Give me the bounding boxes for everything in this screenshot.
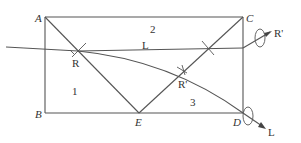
- ray-l-straight: [78, 48, 243, 51]
- label-r-prime-out: R': [274, 27, 283, 39]
- label-region-1: 1: [72, 85, 78, 97]
- ray-r-prime-exit: [243, 38, 260, 48]
- tick-r-left-1: [72, 43, 86, 57]
- label-a: A: [34, 12, 42, 24]
- label-l-line: L: [142, 39, 149, 51]
- label-r-left: R: [72, 57, 80, 69]
- label-c: C: [246, 12, 254, 24]
- label-l-out: L: [268, 126, 275, 138]
- label-region-3: 3: [190, 96, 196, 108]
- curved-ray: [78, 51, 243, 113]
- arrowhead-l-icon: [258, 122, 266, 129]
- geometry-diagram: A B C D E 1 2 3 R R' R' L L: [0, 0, 301, 143]
- label-region-2: 2: [150, 23, 156, 35]
- label-e: E: [134, 116, 142, 128]
- label-b: B: [35, 108, 42, 120]
- label-r-mid: R': [178, 78, 187, 90]
- label-d: D: [232, 116, 241, 128]
- line-ae: [45, 17, 139, 113]
- ray-l-incoming: [6, 47, 78, 51]
